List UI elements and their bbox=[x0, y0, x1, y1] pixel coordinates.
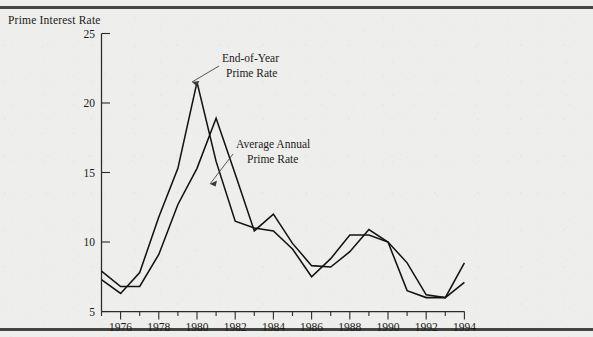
x-tick-label: 1984 bbox=[262, 321, 285, 333]
annotation-average-annual-line2: Prime Rate bbox=[247, 153, 298, 165]
y-tick-label: 5 bbox=[89, 306, 95, 318]
annotation-average-annual-arrowhead bbox=[210, 181, 217, 187]
series-line-end-of-year bbox=[102, 82, 465, 297]
y-axis-ticks bbox=[102, 34, 111, 312]
x-axis: 1976 1978 1980 1982 1984 1986 1988 1990 … bbox=[102, 312, 477, 334]
x-tick-label: 1982 bbox=[224, 321, 247, 333]
line-chart: 25 20 15 10 5 bbox=[0, 0, 593, 337]
y-tick-label: 25 bbox=[84, 28, 96, 40]
y-tick-label: 10 bbox=[84, 236, 96, 248]
x-tick-label: 1992 bbox=[415, 321, 438, 333]
x-axis-ticks bbox=[102, 312, 465, 320]
y-tick-label: 20 bbox=[84, 97, 96, 109]
x-axis-tick-labels: 1976 1978 1980 1982 1984 1986 1988 1990 … bbox=[109, 321, 476, 333]
annotation-end-of-year: End-of-Year Prime Rate bbox=[192, 52, 279, 86]
x-tick-label: 1980 bbox=[186, 321, 209, 333]
x-tick-label: 1994 bbox=[453, 321, 476, 333]
x-tick-label: 1988 bbox=[338, 321, 361, 333]
y-tick-label: 15 bbox=[84, 167, 96, 179]
annotation-end-of-year-line2: Prime Rate bbox=[226, 67, 277, 79]
x-tick-label: 1976 bbox=[109, 321, 132, 333]
annotation-average-annual-line1: Average Annual bbox=[236, 138, 310, 151]
x-tick-label: 1978 bbox=[147, 321, 170, 333]
annotation-end-of-year-line1: End-of-Year bbox=[222, 52, 279, 64]
x-tick-label: 1990 bbox=[377, 321, 400, 333]
y-axis-tick-labels: 25 20 15 10 5 bbox=[84, 28, 96, 318]
figure-page: Prime Interest Rate 25 20 15 10 5 bbox=[0, 0, 593, 337]
x-tick-label: 1986 bbox=[300, 321, 323, 333]
